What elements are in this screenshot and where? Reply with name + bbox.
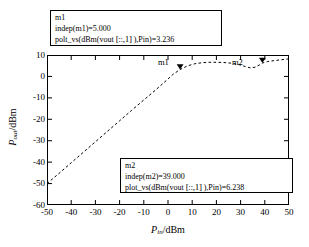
y-tick-label: 0 <box>21 72 45 81</box>
marker-callout-m2[interactable]: m2 indep(m2)=39.000 plot_vs(dBm(vout [::… <box>120 158 293 193</box>
y-axis-title-symbol: P <box>7 140 18 146</box>
y-tick-label: -20 <box>21 115 45 124</box>
callout-m1-indep: indep(m1)=5.000 <box>55 24 218 35</box>
callout-m1-value: polt_vs(dBm(vout [::,1] ),Pin)=3.236 <box>55 34 218 46</box>
callout-m2-value-suffix: ),Pin)=6.238 <box>202 183 245 192</box>
marker-label-m2: m2 <box>232 58 243 67</box>
marker-glyphs <box>177 58 266 70</box>
x-axis-tick-labels: -50 -40 -30 -20 -10 0 10 20 30 40 50 <box>47 208 289 222</box>
marker-label-m1: m1 <box>158 58 169 67</box>
x-axis-title-unit: /dBm <box>163 224 185 235</box>
y-tick-label: -10 <box>21 93 45 102</box>
y-tick-label: -40 <box>21 158 45 167</box>
callout-m1-name: m1 <box>55 13 218 24</box>
callout-m1-value-prefix: polt_vs(dBm(vout <box>55 35 116 44</box>
callout-m2-indep: indep(m2)=39.000 <box>125 172 289 183</box>
callout-m2-value-index: [::,1] <box>186 182 202 192</box>
y-axis-title-subscript: out <box>11 131 19 140</box>
y-axis-title-unit: /dBm <box>7 108 18 130</box>
callout-m1-value-suffix: ),Pin)=3.236 <box>132 35 175 44</box>
y-tick-label: 10 <box>21 51 45 60</box>
marker-triangle-m2[interactable] <box>259 58 266 63</box>
marker-triangle-m1[interactable] <box>177 64 184 69</box>
y-tick-label: -50 <box>21 179 45 188</box>
callout-m2-value: plot_vs(dBm(vout [::,1] ),Pin)=6.238 <box>125 182 289 194</box>
x-axis-title: Pin/dBm <box>47 224 289 238</box>
callout-m1-value-index: [::,1] <box>116 34 132 44</box>
marker-callout-m1[interactable]: m1 indep(m1)=5.000 polt_vs(dBm(vout [::,… <box>50 10 222 46</box>
y-axis-title: Pout/dBm <box>7 92 21 162</box>
callout-m2-name: m2 <box>125 161 289 172</box>
x-tick-label: 50 <box>275 208 303 217</box>
chart-page: 10 0 -10 -20 -30 -40 -50 -60 <box>0 0 309 247</box>
callout-m2-value-prefix: plot_vs(dBm(vout <box>125 183 186 192</box>
y-tick-label: -30 <box>21 136 45 145</box>
